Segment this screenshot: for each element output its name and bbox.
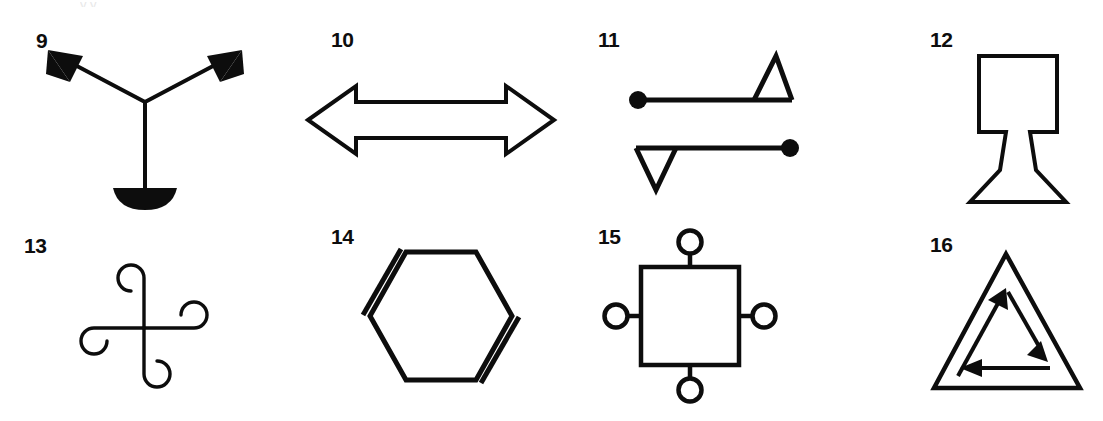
figure-11-dot-line-triangle-pair: [620, 48, 820, 196]
figure-13-label: 13: [24, 235, 46, 256]
top-bleed-text: y y: [80, 0, 97, 7]
figure-13-curled-cross-pinwheel: [66, 248, 222, 404]
figure-sheet: y y 9 10 11: [0, 0, 1103, 421]
figure-12-lamp-outline: [962, 48, 1074, 210]
figure-11-label: 11: [598, 29, 619, 50]
figure-10-label: 10: [331, 29, 353, 50]
figure-12-label: 12: [930, 29, 952, 50]
figure-15-square-with-four-circles: [600, 226, 780, 406]
figure-16-triangle-with-cyclic-arrows: [928, 248, 1090, 398]
figure-10-double-headed-arrow: [300, 78, 562, 162]
figure-9-y-arrows-with-crescent: [28, 44, 264, 210]
figure-14-hexagon-two-double-bonds: [348, 238, 534, 394]
